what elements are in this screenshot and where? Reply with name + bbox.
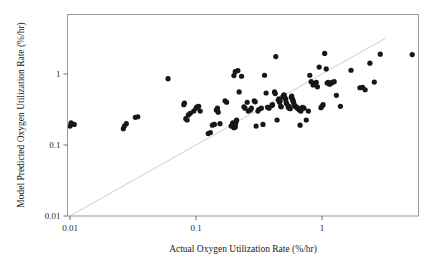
data-point <box>270 102 275 107</box>
x-tick-label: 0.1 <box>190 223 201 233</box>
data-point <box>259 106 264 111</box>
data-point <box>235 68 240 73</box>
data-point <box>334 93 339 98</box>
data-point <box>216 110 221 115</box>
data-point <box>274 117 279 122</box>
data-point <box>262 73 267 78</box>
data-point <box>297 123 302 128</box>
data-point <box>217 121 222 126</box>
y-tick-label: 0.1 <box>49 140 60 150</box>
data-point <box>338 104 343 109</box>
data-point <box>367 61 372 66</box>
data-point <box>273 54 278 59</box>
data-point <box>322 51 327 56</box>
plot-canvas: 0.010.11 0.010.11 Actual Oxygen Utilizat… <box>0 0 439 269</box>
data-point <box>306 109 311 114</box>
data-point <box>263 90 268 95</box>
data-point <box>245 100 250 105</box>
data-point <box>314 80 319 85</box>
data-point <box>324 66 329 71</box>
data-point <box>332 79 337 84</box>
data-point <box>234 117 239 122</box>
scatter-plot-figure: 0.010.11 0.010.11 Actual Oxygen Utilizat… <box>0 0 439 269</box>
data-point <box>198 109 203 114</box>
data-point <box>260 122 265 127</box>
data-point <box>254 123 259 128</box>
data-point <box>237 89 242 94</box>
data-point <box>301 106 306 111</box>
data-point <box>304 117 309 122</box>
data-point <box>196 104 201 109</box>
y-tick-label: 0.01 <box>45 211 61 221</box>
data-point <box>273 91 278 96</box>
y-axis-title: Model Predicted Oxygen Utilization Rate … <box>16 22 27 207</box>
data-point <box>288 106 293 111</box>
data-point <box>212 122 217 127</box>
data-point <box>72 122 77 127</box>
data-point <box>278 99 283 104</box>
data-point <box>182 100 187 105</box>
data-point <box>315 84 320 89</box>
data-point <box>253 99 258 104</box>
data-point <box>249 106 254 111</box>
data-point <box>239 74 244 79</box>
data-point <box>208 130 213 135</box>
data-point <box>307 73 312 78</box>
x-axis-title: Actual Oxygen Utilization Rate (%/hr) <box>169 244 317 255</box>
data-point <box>317 65 322 70</box>
x-tick-label: 0.01 <box>62 223 78 233</box>
data-point <box>378 52 383 57</box>
data-point <box>372 79 377 84</box>
y-tick-label: 1 <box>56 69 61 79</box>
data-point <box>185 117 190 122</box>
data-point <box>279 104 284 109</box>
data-point <box>348 68 353 73</box>
data-point <box>124 121 129 126</box>
data-point <box>165 76 170 81</box>
data-point <box>320 102 325 107</box>
data-point <box>363 87 368 92</box>
data-point <box>410 52 415 57</box>
data-point <box>135 114 140 119</box>
data-point <box>224 100 229 105</box>
x-tick-label: 1 <box>320 223 325 233</box>
